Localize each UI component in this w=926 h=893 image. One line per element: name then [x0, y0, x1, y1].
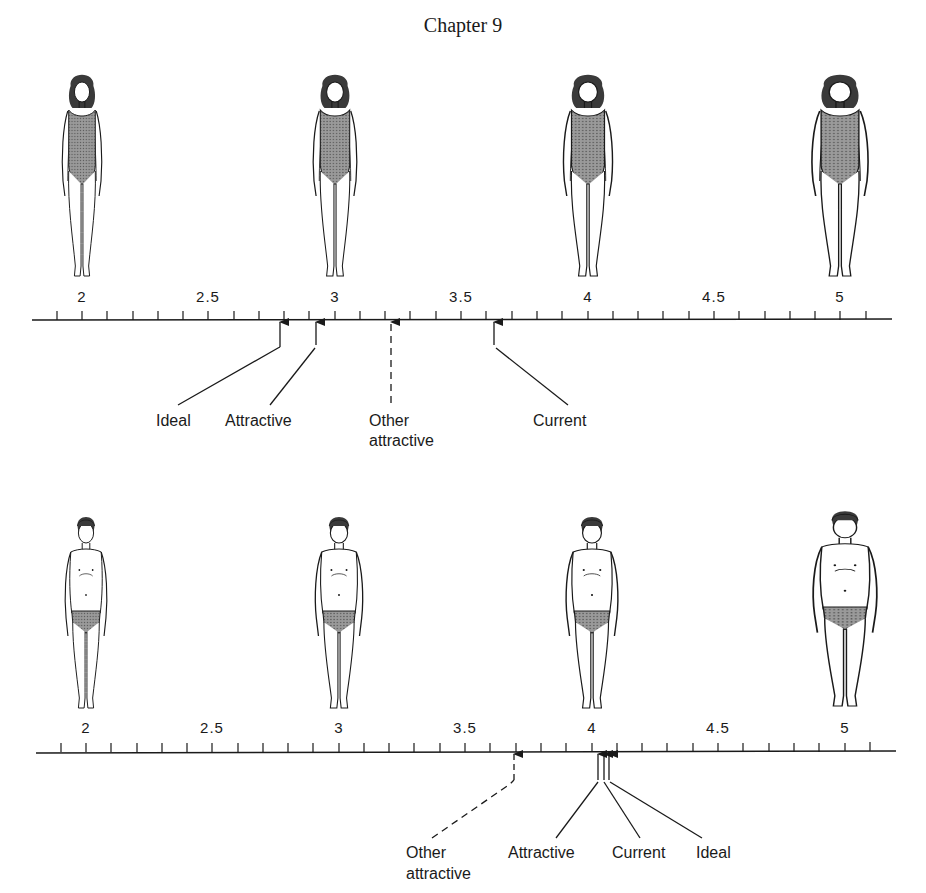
tick-label-4-5: 4.5 [702, 288, 726, 305]
tick-label-2: 2 [77, 288, 86, 305]
scale-ticks [61, 742, 870, 752]
marker-attractive [556, 754, 598, 838]
scale-axis [36, 751, 896, 753]
tick-label-3: 3 [330, 288, 339, 305]
female-figure-1 [62, 75, 101, 276]
label-other-attractive-1: Other [369, 412, 410, 429]
tick-label-3-5: 3.5 [453, 719, 477, 736]
tick-label-5: 5 [840, 719, 849, 736]
label-other-attractive-2: attractive [369, 432, 434, 449]
marker-ideal [178, 322, 280, 405]
female-figure-3 [313, 75, 357, 276]
page-title: Chapter 9 [0, 14, 926, 37]
label-other-attractive-1: Other [406, 844, 447, 861]
tick-label-2-5: 2.5 [196, 288, 220, 305]
label-other-attractive-2: attractive [406, 865, 471, 882]
male-figure-5 [566, 517, 618, 708]
marker-current [494, 322, 568, 405]
tick-label-4: 4 [583, 288, 592, 305]
label-current: Current [612, 844, 666, 861]
tick-label-2-5: 2.5 [200, 719, 224, 736]
tick-label-3-5: 3.5 [449, 288, 473, 305]
label-ideal: Ideal [156, 412, 191, 429]
label-attractive: Attractive [225, 412, 292, 429]
tick-label-2: 2 [81, 719, 90, 736]
tick-label-5: 5 [835, 288, 844, 305]
label-attractive: Attractive [508, 844, 575, 861]
label-ideal: Ideal [696, 844, 731, 861]
women-figure-scale: 2 2.5 3 3.5 4 4.5 5 [0, 60, 926, 460]
male-figure-3 [315, 517, 362, 708]
tick-label-3: 3 [334, 719, 343, 736]
marker-other-attractive [432, 754, 514, 838]
label-current: Current [533, 412, 587, 429]
female-figure-5 [563, 75, 612, 276]
tick-label-4: 4 [587, 719, 596, 736]
men-figure-scale: 2 2.5 3 3.5 4 4.5 5 Ot [0, 500, 926, 893]
male-figure-1 [65, 517, 107, 708]
marker-ideal [609, 754, 702, 838]
marker-attractive [270, 322, 316, 405]
male-figure-7 [813, 511, 877, 706]
scale-axis [32, 319, 892, 320]
tick-label-4-5: 4.5 [706, 719, 730, 736]
female-figure-7 [812, 75, 868, 276]
